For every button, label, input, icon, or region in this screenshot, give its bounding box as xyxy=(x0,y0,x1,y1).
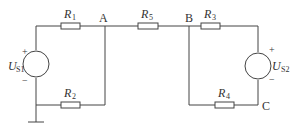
svg-text:+: + xyxy=(269,44,275,55)
resistor-r1: R 1 xyxy=(61,7,80,29)
r3-label: R xyxy=(203,7,212,21)
r1-label: R xyxy=(63,7,72,21)
r4-label: R xyxy=(217,86,226,100)
circuit-diagram: R 1 R 2 R 5 R 3 R 4 + − U S1 + − U S2 A … xyxy=(0,0,298,135)
svg-text:3: 3 xyxy=(212,13,216,22)
svg-text:1: 1 xyxy=(72,13,76,22)
r5-label: R xyxy=(140,7,149,21)
svg-text:S1: S1 xyxy=(16,65,24,74)
voltage-source-us2: + − U S2 xyxy=(245,44,289,85)
resistor-r3: R 3 xyxy=(201,7,220,29)
svg-text:2: 2 xyxy=(72,92,76,101)
r2-label: R xyxy=(63,86,72,100)
svg-text:−: − xyxy=(269,74,275,85)
svg-text:+: + xyxy=(22,46,28,57)
resistor-r2: R 2 xyxy=(61,86,80,108)
svg-text:−: − xyxy=(22,75,28,86)
resistor-r5: R 5 xyxy=(138,7,158,29)
node-a-label: A xyxy=(99,11,108,25)
svg-text:5: 5 xyxy=(149,13,153,22)
voltage-source-us1: + − U S1 xyxy=(8,46,49,86)
resistor-r4: R 4 xyxy=(215,86,234,108)
svg-text:S2: S2 xyxy=(281,65,289,74)
node-c-label: C xyxy=(262,99,270,113)
node-b-label: B xyxy=(185,11,193,25)
svg-text:4: 4 xyxy=(226,92,230,101)
